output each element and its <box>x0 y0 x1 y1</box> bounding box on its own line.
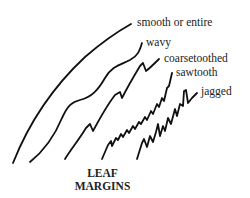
label-wavy: wavy <box>146 37 171 49</box>
title-line-2: MARGINS <box>70 180 135 193</box>
jagged-margin-curve <box>137 90 197 159</box>
title-line-1: LEAF <box>70 167 135 180</box>
label-sawtooth: sawtooth <box>176 67 218 79</box>
diagram-title: LEAF MARGINS <box>70 167 135 193</box>
wavy-margin-curve <box>30 43 142 162</box>
label-coarsetoothed: coarsetoothed <box>164 53 228 65</box>
sawtooth-margin-curve <box>102 73 172 159</box>
label-smooth-or-entire: smooth or entire <box>137 17 212 29</box>
label-jagged: jagged <box>201 86 232 98</box>
